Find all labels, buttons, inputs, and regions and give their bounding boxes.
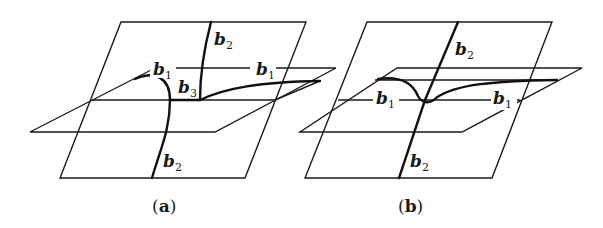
panel-b-label-b2-bottom: b2 xyxy=(410,151,429,174)
panel-a-label-b2-bottom: b2 xyxy=(163,151,182,174)
panel-b-b2-top-line xyxy=(425,22,458,100)
panel-b-b1-curve xyxy=(378,78,557,102)
diagram-figure: b2 b1 b1 b3 b2 (a) b2 b1 b1 b2 (b) xyxy=(0,0,603,228)
panel-b: b2 b1 b1 b2 (b) xyxy=(300,22,582,216)
panel-b-caption: (b) xyxy=(398,196,423,216)
diagram-canvas: b2 b1 b1 b3 b2 (a) b2 b1 b1 b2 (b) xyxy=(0,0,603,228)
panel-a-caption: (a) xyxy=(152,196,176,216)
panel-a-b1-right-curve xyxy=(200,81,320,100)
panel-a: b2 b1 b1 b3 b2 (a) xyxy=(30,22,336,216)
panel-a-label-b3: b3 xyxy=(178,77,197,100)
panel-a-b2-top-curve xyxy=(200,22,211,100)
panel-a-label-b2-top: b2 xyxy=(214,29,233,52)
panel-b-label-b2-top: b2 xyxy=(455,39,474,62)
